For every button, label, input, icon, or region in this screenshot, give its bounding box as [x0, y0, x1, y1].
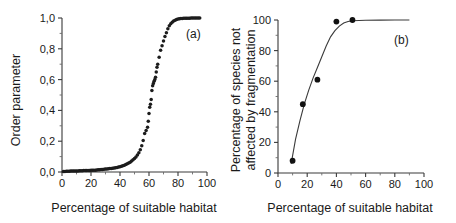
svg-text:0,2: 0,2: [40, 135, 55, 147]
data-point: [159, 49, 163, 53]
data-point: [315, 77, 321, 83]
svg-text:80: 80: [389, 178, 401, 190]
svg-text:40: 40: [114, 177, 126, 189]
svg-text:20: 20: [301, 178, 313, 190]
data-point: [149, 98, 153, 102]
svg-text:0,4: 0,4: [40, 104, 55, 116]
data-point: [139, 148, 143, 152]
data-point: [163, 35, 167, 39]
svg-text:40: 40: [259, 106, 271, 118]
data-point: [137, 151, 141, 155]
data-point: [300, 101, 306, 107]
data-point: [143, 132, 147, 136]
svg-text:0,0: 0,0: [40, 166, 55, 178]
data-point: [141, 139, 145, 143]
panel-b-fit-curve: [291, 20, 409, 164]
svg-text:0,8: 0,8: [40, 43, 55, 55]
svg-text:0,6: 0,6: [40, 74, 55, 86]
panel-b-x-tick-labels: 020406080100: [275, 178, 433, 190]
svg-text:40: 40: [330, 178, 342, 190]
panel-a-plot: 020406080100 0,00,20,40,60,81,0 (a) Perc…: [0, 0, 228, 223]
panel-a-x-axis-title: Percentage of suitable habitat: [51, 201, 217, 215]
panel-a-y-axis-title: Order parameter: [9, 54, 23, 146]
panel-a: 020406080100 0,00,20,40,60,81,0 (a) Perc…: [0, 0, 228, 223]
data-point: [162, 39, 166, 43]
panel-a-axes: [62, 18, 207, 172]
data-point: [160, 44, 164, 48]
data-point: [155, 66, 159, 70]
svg-text:80: 80: [172, 177, 184, 189]
svg-text:60: 60: [359, 178, 371, 190]
data-point: [140, 144, 144, 148]
panel-b-label: (b): [394, 33, 409, 47]
data-point: [155, 70, 159, 74]
data-point: [166, 27, 170, 31]
panel-a-ticks: [58, 18, 207, 176]
panel-b-x-axis-title: Percentage of suitable habitat: [267, 201, 433, 215]
svg-text:60: 60: [143, 177, 155, 189]
data-point: [198, 16, 202, 20]
panel-a-label: (a): [186, 27, 201, 41]
panel-a-x-tick-labels: 020406080100: [59, 177, 216, 189]
data-point: [157, 56, 161, 60]
panel-b-plot: 020406080100 020406080100 (b) Percentage…: [228, 0, 456, 223]
data-point: [350, 17, 356, 23]
svg-text:1,0: 1,0: [40, 12, 55, 24]
data-point: [146, 126, 150, 130]
panel-b-y-axis-title-line2: affected by fragmentation: [244, 30, 258, 171]
svg-text:100: 100: [415, 178, 433, 190]
figure-two-panel-scatter: 020406080100 0,00,20,40,60,81,0 (a) Perc…: [0, 0, 456, 223]
panel-a-data-points: [62, 16, 202, 173]
data-point: [147, 112, 151, 116]
data-point: [150, 89, 154, 93]
data-point: [148, 106, 152, 110]
data-point: [290, 158, 296, 164]
data-point: [154, 76, 158, 80]
panel-b-y-axis-title-line1: Percentage of species not: [229, 27, 243, 172]
svg-text:20: 20: [85, 177, 97, 189]
data-point: [334, 19, 340, 25]
data-point: [165, 31, 169, 35]
svg-text:0: 0: [265, 167, 271, 179]
svg-text:100: 100: [198, 177, 216, 189]
panel-b-data-points: [290, 17, 356, 164]
data-point: [147, 119, 151, 123]
svg-text:80: 80: [259, 45, 271, 57]
svg-text:0: 0: [275, 178, 281, 190]
panel-b: 020406080100 020406080100 (b) Percentage…: [228, 0, 456, 223]
data-point: [144, 129, 148, 133]
data-point: [156, 62, 160, 66]
svg-text:20: 20: [259, 136, 271, 148]
svg-text:100: 100: [253, 14, 271, 26]
svg-text:60: 60: [259, 75, 271, 87]
svg-text:0: 0: [59, 177, 65, 189]
panel-a-y-tick-labels: 0,00,20,40,60,81,0: [40, 12, 55, 178]
data-point: [149, 102, 153, 106]
